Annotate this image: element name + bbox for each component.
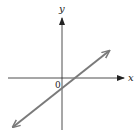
plotted-line: [13, 51, 109, 127]
x-axis-label: x: [128, 72, 134, 83]
origin-label: 0: [55, 80, 61, 90]
y-axis-label: y: [58, 3, 65, 14]
coordinate-graph: x y 0: [0, 0, 135, 135]
